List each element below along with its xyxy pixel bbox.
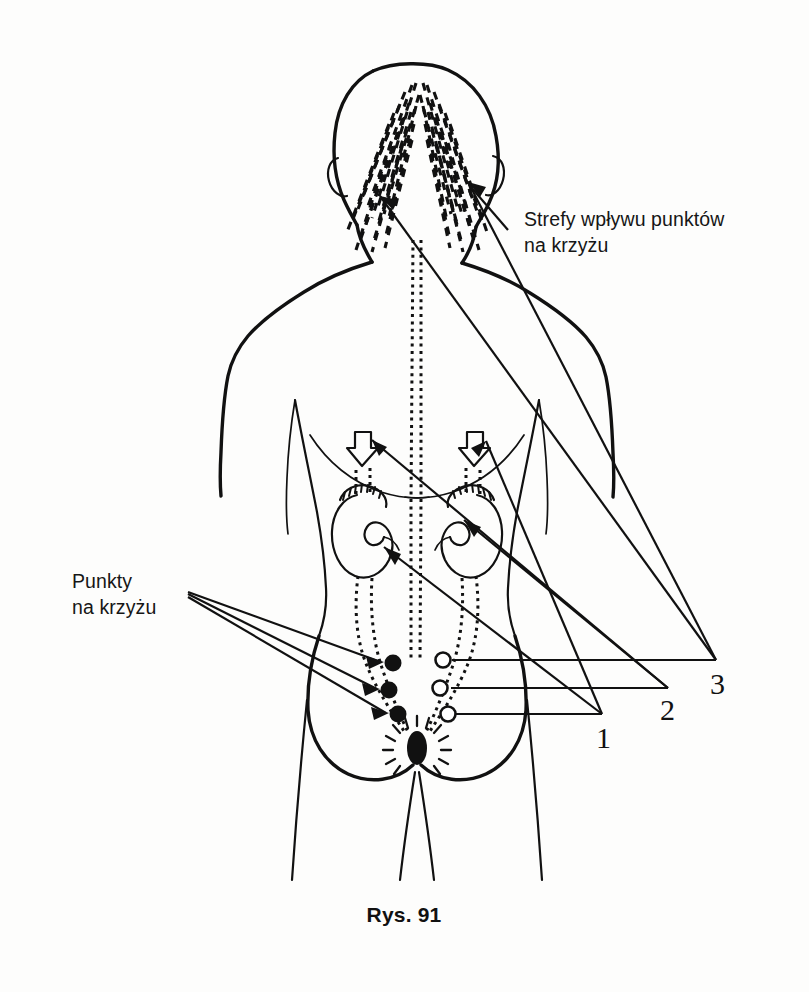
callout-number-3: 3 xyxy=(710,667,725,700)
figure-caption: Rys. 91 xyxy=(367,903,442,926)
callout-number-2: 2 xyxy=(660,693,675,726)
sacral-point-right-3[interactable] xyxy=(441,707,456,722)
callout-number-1: 1 xyxy=(596,721,611,754)
figure-container: Strefy wpływu punktów na krzyżu Punkty n… xyxy=(0,0,809,992)
sacral-point-right-2[interactable] xyxy=(433,681,448,696)
anatomy-figure-svg: Strefy wpływu punktów na krzyżu Punkty n… xyxy=(0,0,809,992)
sacral-point-right-1[interactable] xyxy=(436,653,451,668)
points-label-line1: Punkty xyxy=(72,570,132,592)
points-label-line2: na krzyżu xyxy=(72,596,156,618)
sacral-point-left-2[interactable] xyxy=(381,682,398,699)
coccyx-point xyxy=(407,731,427,765)
zones-label-line1: Strefy wpływu punktów xyxy=(524,208,725,230)
sacral-point-left-1[interactable] xyxy=(385,655,402,672)
sacral-point-left-3[interactable] xyxy=(390,706,407,723)
zones-label-line2: na krzyżu xyxy=(524,234,608,256)
